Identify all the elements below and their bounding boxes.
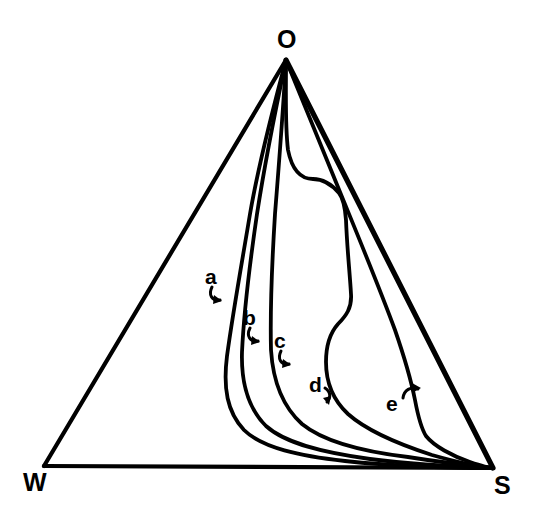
boundary-curve-a	[226, 60, 493, 468]
ternary-diagram-canvas	[0, 0, 537, 516]
ternary-diagram-figure: O W S a b c d e	[0, 0, 537, 516]
curve-label-c: c	[274, 330, 286, 351]
curve-label-e: e	[386, 393, 398, 414]
vertex-label-W: W	[23, 470, 47, 495]
curve-label-d: d	[309, 374, 322, 395]
vertex-label-S: S	[494, 473, 511, 498]
vertex-label-O: O	[277, 27, 296, 52]
leader-arrowhead-d	[323, 396, 331, 405]
curve-label-b: b	[243, 307, 256, 328]
leader-arrowhead-e	[412, 383, 421, 393]
curve-label-a: a	[205, 266, 217, 287]
